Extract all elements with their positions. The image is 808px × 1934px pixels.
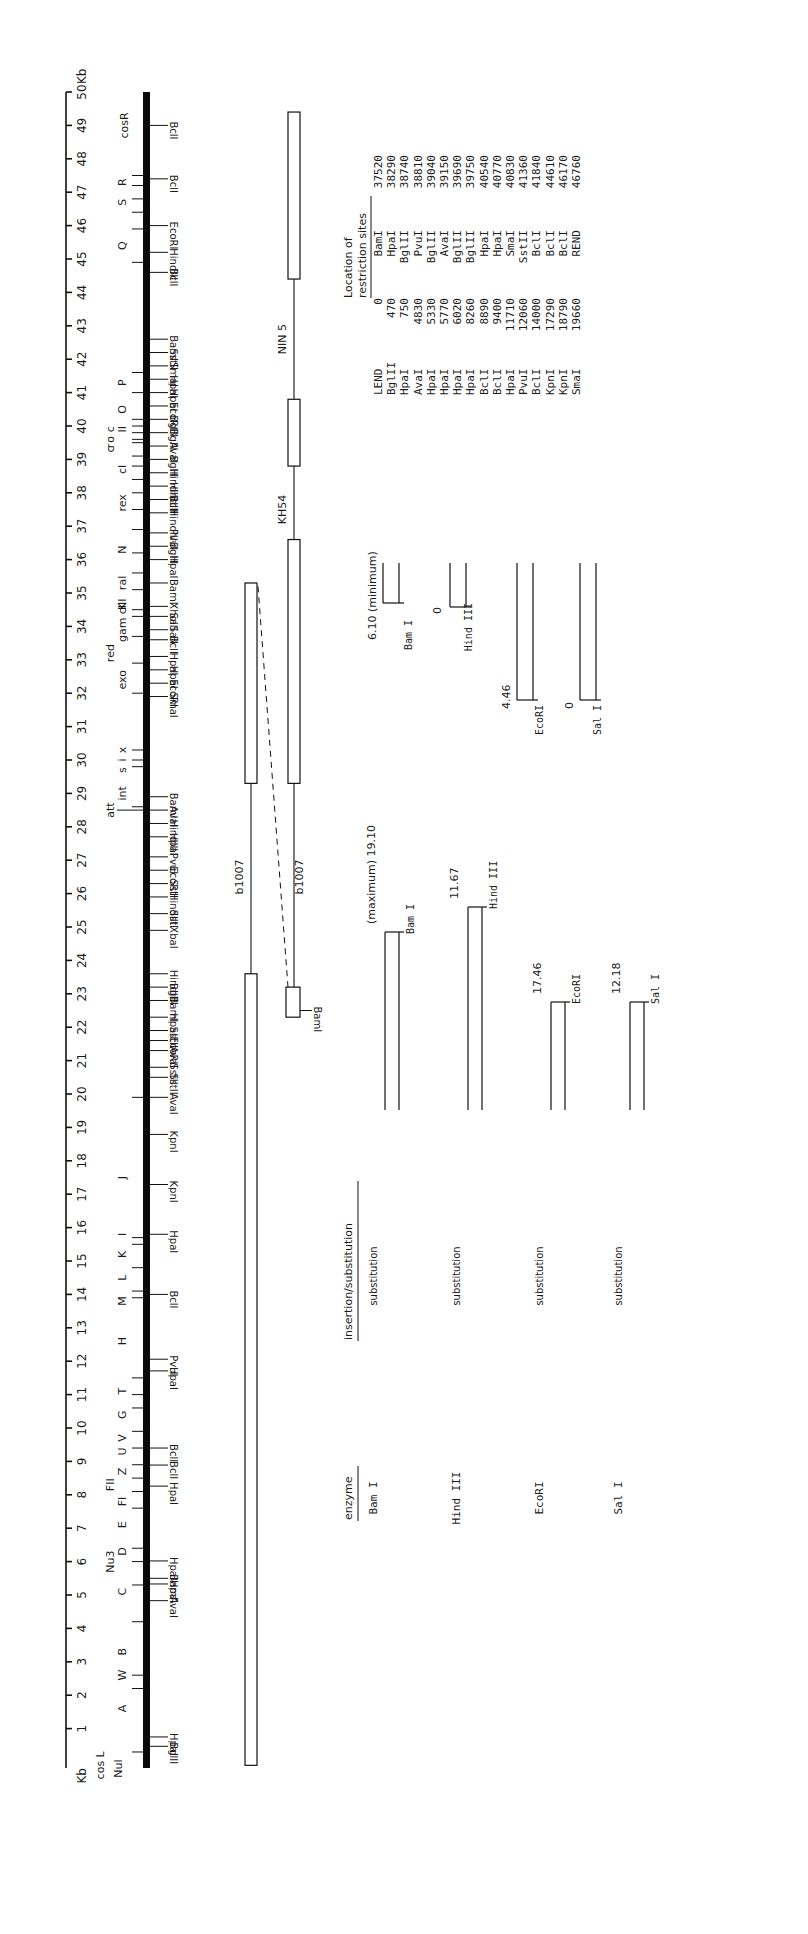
- gene-label: cI: [116, 465, 129, 474]
- deletion-bars: b1007KH54NIN 5b1007BamI: [233, 112, 323, 1765]
- restriction-site-label: HpaI: [168, 1557, 179, 1580]
- gene-label: int: [116, 786, 129, 801]
- gene-labels: AWBCNu3DEFIFIIZUVGTHMLKIJattintxisexored…: [104, 176, 146, 1752]
- axis-tick-label: 47: [75, 185, 89, 200]
- table-cell-position-left: 17290: [544, 298, 557, 331]
- genome-bar: [143, 92, 150, 1768]
- axis-unit-bottom: Kb: [75, 1768, 89, 1784]
- table-cell-position-right: 44610: [544, 155, 557, 188]
- table-cell-position-right: 40540: [478, 155, 491, 188]
- replacement-enzyme-label: Sal I: [612, 1481, 625, 1514]
- table-cell-enzyme-left: BclI: [491, 369, 504, 396]
- restriction-site-label: KpnI: [168, 1130, 179, 1152]
- axis-tick-label: 12: [75, 1354, 89, 1369]
- axis-tick-label: 23: [75, 986, 89, 1001]
- restriction-site-label: HpaI: [168, 1482, 179, 1505]
- table-cell-enzyme-right: BglII: [464, 230, 477, 263]
- restriction-site-label: PvuI: [168, 853, 179, 874]
- replacement-type-label: substitution: [534, 1246, 545, 1305]
- gene-label: S: [116, 199, 129, 206]
- gene-label: s: [116, 767, 129, 773]
- axis-tick-label: 25: [75, 919, 89, 934]
- axis-tick-label: 18: [75, 1153, 89, 1168]
- nin5-segment: [288, 112, 300, 279]
- table-cell-enzyme-right: BclI: [544, 230, 557, 257]
- max-site-label: Bam I: [405, 904, 416, 934]
- max-size-label: 12.18: [610, 963, 623, 995]
- axis-tick-label: 50: [75, 84, 89, 99]
- bam-box-label: BamI: [312, 1007, 323, 1033]
- axis-tick-label: 41: [75, 385, 89, 400]
- table-cell-position-right: 46760: [570, 155, 583, 188]
- b1007-dashed-connector: [258, 586, 288, 987]
- restriction-site-label: HindIII: [168, 970, 179, 1002]
- gene-label: FII: [104, 1478, 117, 1491]
- restriction-site-label: PvuI: [168, 1355, 179, 1376]
- axis-tick-label: 29: [75, 786, 89, 801]
- axis-tick-label: 17: [75, 1187, 89, 1202]
- min-site-label: Bam I: [403, 620, 414, 650]
- gene-label: gam: [116, 618, 129, 642]
- axis-tick-label: 27: [75, 853, 89, 868]
- gene-label: Z: [116, 1467, 129, 1475]
- table-cell-enzyme-right: PvuI: [412, 230, 425, 257]
- gene-label: FI: [116, 1497, 129, 1507]
- axis-tick-label: 6: [75, 1558, 89, 1566]
- gene-label: x: [116, 746, 129, 753]
- gene-label: D: [116, 1547, 129, 1555]
- min-site-label: Sal I: [592, 705, 603, 735]
- restriction-site-label: XbaI: [168, 926, 179, 948]
- table-cell-enzyme-left: HpaI: [438, 369, 451, 396]
- gene-label: E: [116, 1521, 129, 1528]
- restriction-site-label: XhoI: [168, 602, 179, 624]
- lambda-restriction-map-figure: 1234567891011121314151617181920212223242…: [0, 0, 808, 1934]
- kh54-right-segment: [288, 399, 300, 466]
- min-size-label: 6.10 (minimum): [366, 551, 379, 640]
- bam-box: [286, 987, 300, 1017]
- table-cell-enzyme-left: HpaI: [464, 369, 477, 396]
- table-cell-enzyme-right: HpaI: [478, 230, 491, 257]
- gene-label: II: [116, 426, 129, 433]
- table-cell-position-left: 5330: [425, 298, 438, 325]
- axis-tick-label: 35: [75, 585, 89, 600]
- axis-tick-label: 3: [75, 1658, 89, 1666]
- table-cell-enzyme-left: BglII: [385, 362, 398, 395]
- replacement-enzyme-label: Bam I: [367, 1481, 380, 1514]
- table-cell-position-right: 37520: [372, 155, 385, 188]
- b1007-right-segment: [245, 583, 257, 783]
- table-cell-position-right: 38290: [385, 155, 398, 188]
- gene-label: H: [116, 1337, 129, 1345]
- kh54-left-segment: [288, 540, 300, 784]
- replacement-enzyme-label: Hind III: [450, 1472, 463, 1525]
- axis-tick-label: 5: [75, 1591, 89, 1599]
- table-cell-position-right: 40770: [491, 155, 504, 188]
- restriction-site-label: BclI: [168, 175, 179, 193]
- table-cell-position-right: 39150: [438, 155, 451, 188]
- header-type: insertion/substitution: [342, 1223, 355, 1340]
- replacement-type-label: substitution: [368, 1246, 379, 1305]
- gene-label: rex: [116, 494, 129, 512]
- table-cell-position-left: 470: [385, 298, 398, 318]
- table-cell-position-left: 11710: [504, 298, 517, 331]
- axis-tick-label: 20: [75, 1086, 89, 1101]
- axis-tick-label: 13: [75, 1320, 89, 1335]
- axis-tick-label: 7: [75, 1524, 89, 1532]
- nin5-label: NIN 5: [276, 324, 289, 354]
- table-cell-position-right: 39690: [451, 155, 464, 188]
- gene-label: cIII: [116, 598, 129, 614]
- table-title-line1: Location of: [342, 236, 355, 298]
- table-cell-enzyme-left: AvaI: [412, 369, 425, 396]
- restriction-site-label: BamI: [168, 579, 179, 605]
- table-cell-position-left: 5770: [438, 298, 451, 325]
- table-cell-enzyme-right: SmaI: [504, 230, 517, 257]
- gene-label: U: [116, 1447, 129, 1455]
- table-cell-position-right: 38810: [412, 155, 425, 188]
- max-size-label: 17.46: [531, 963, 544, 995]
- axis-tick-label: 45: [75, 251, 89, 266]
- table-cell-enzyme-right: HpaI: [491, 230, 504, 257]
- axis-tick-label: 31: [75, 719, 89, 734]
- restriction-site-label: HpaI: [168, 1230, 179, 1253]
- gene-label: exo: [116, 670, 129, 690]
- table-cell-enzyme-left: HpaI: [398, 369, 411, 396]
- axis-tick-label: 22: [75, 1020, 89, 1035]
